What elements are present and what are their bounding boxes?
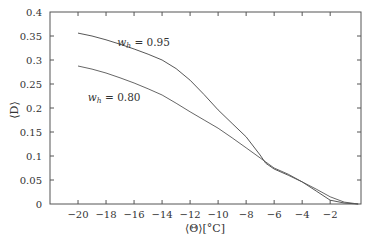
series-line-0: [78, 33, 358, 204]
line-chart: 00.050.10.150.20.250.30.350.4 −20−18−16−…: [0, 0, 368, 239]
series-label-0: wh = 0.95: [117, 36, 170, 51]
y-tick-label: 0.15: [20, 127, 42, 138]
x-tick-label: −16: [123, 209, 144, 220]
x-tick-label: −20: [67, 209, 88, 220]
x-tick-label: −18: [95, 209, 116, 220]
series-label-1: wh = 0.80: [88, 91, 141, 106]
y-tick-label: 0.35: [20, 31, 42, 42]
x-axis-tick-labels: −20−18−16−14−12−10−8−6−4−2: [67, 209, 337, 220]
y-tick-label: 0: [36, 199, 42, 210]
y-tick-label: 0.25: [20, 79, 42, 90]
axis-ticks: [50, 12, 361, 204]
y-tick-label: 0.4: [26, 7, 42, 18]
y-axis-label: ⟨D⟩: [8, 101, 21, 118]
x-tick-label: −6: [267, 209, 282, 220]
series-annotations: wh = 0.95wh = 0.80: [88, 36, 170, 106]
x-tick-label: −8: [239, 209, 254, 220]
plot-frame: [50, 12, 361, 204]
x-tick-label: −14: [152, 209, 173, 220]
series-line-1: [78, 66, 358, 204]
y-tick-label: 0.3: [26, 55, 42, 66]
x-tick-label: −12: [180, 209, 201, 220]
data-series: [78, 33, 358, 204]
y-axis-tick-labels: 00.050.10.150.20.250.30.350.4: [20, 7, 42, 210]
x-tick-label: −4: [295, 209, 310, 220]
y-tick-label: 0.05: [20, 175, 42, 186]
x-axis-label: ⟨Θ⟩[°C]: [185, 222, 225, 235]
x-tick-label: −10: [208, 209, 229, 220]
x-tick-label: −2: [323, 209, 338, 220]
y-tick-label: 0.1: [26, 151, 42, 162]
y-tick-label: 0.2: [26, 103, 42, 114]
